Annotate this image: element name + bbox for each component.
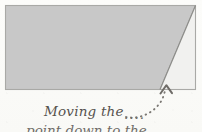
caption-ellipsis: ....	[124, 106, 145, 122]
caption-layer: Moving the .... point down to the	[0, 0, 202, 132]
caption-line-primary: Moving the	[44, 104, 124, 119]
caption-line-secondary: point down to the	[26, 123, 147, 132]
figure-page: Moving the .... point down to the	[0, 0, 202, 132]
